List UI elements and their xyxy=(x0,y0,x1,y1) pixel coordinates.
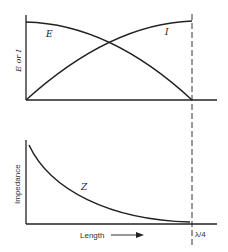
label-z: Z xyxy=(80,182,88,192)
lower-x-label: Length xyxy=(80,231,104,240)
quarter-wave-diagram: E I E or I Z Impedance Length λ/4 xyxy=(0,0,228,252)
lower-y-label: Impedance xyxy=(13,164,22,204)
length-arrow-icon xyxy=(136,232,144,238)
upper-y-label: E or I xyxy=(14,48,23,73)
label-e: E xyxy=(45,29,53,39)
quarter-wave-label: λ/4 xyxy=(195,230,206,239)
label-i: I xyxy=(164,27,169,37)
curve-z xyxy=(29,145,190,222)
